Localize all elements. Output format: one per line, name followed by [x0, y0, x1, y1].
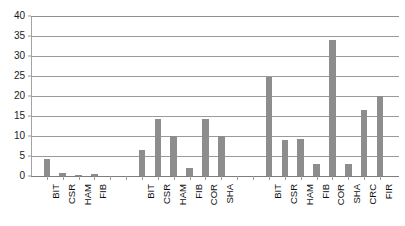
bar-g2-sha: [218, 136, 225, 176]
category-tick: [301, 176, 302, 180]
category-label-bit: BIT: [146, 184, 156, 199]
bar-g3-cor: [329, 40, 336, 176]
category-label-sha: SHA: [352, 184, 362, 204]
category-tick: [285, 176, 286, 180]
y-tick-label-25: 25: [14, 71, 25, 81]
y-tick-label-0: 0: [19, 171, 25, 181]
category-label-sha: SHA: [225, 184, 235, 204]
category-tick: [364, 176, 365, 180]
y-axis-tick-labels: 0510152025303540: [0, 0, 31, 226]
category-tick: [221, 176, 222, 180]
category-tick: [79, 176, 80, 180]
bar-g3-fir: [377, 96, 384, 176]
category-label-csr: CSR: [67, 184, 77, 204]
category-label-csr: CSR: [289, 184, 299, 204]
bar-g2-bit: [139, 150, 146, 176]
y-tick-label-10: 10: [14, 131, 25, 141]
bar-g2-csr: [155, 119, 162, 176]
category-tick: [47, 176, 48, 180]
bars-layer: [31, 16, 399, 176]
bar-g2-cor: [202, 119, 209, 176]
y-tick-label-40: 40: [14, 11, 25, 21]
category-tick: [110, 176, 111, 180]
bar-g3-crc: [361, 110, 368, 176]
category-label-ham: HAM: [83, 184, 93, 205]
y-tick-label-20: 20: [14, 91, 25, 101]
category-tick: [253, 176, 254, 180]
category-tick: [158, 176, 159, 180]
category-label-fib: FIB: [98, 184, 108, 199]
category-label-fir: FIR: [384, 184, 394, 199]
category-label-csr: CSR: [162, 184, 172, 204]
category-tick: [380, 176, 381, 180]
category-label-ham: HAM: [305, 184, 315, 205]
category-tick: [94, 176, 95, 180]
category-tick: [126, 176, 127, 180]
bar-chart: 0510152025303540 BITCSRHAMFIBBITCSRHAMFI…: [0, 0, 405, 226]
y-tick-label-5: 5: [19, 151, 25, 161]
bar-g2-fib: [186, 168, 193, 176]
bar-g3-bit: [266, 77, 273, 176]
category-label-bit: BIT: [51, 184, 61, 199]
category-label-fib: FIB: [194, 184, 204, 199]
category-tick: [332, 176, 333, 180]
category-tick: [269, 176, 270, 180]
category-tick: [205, 176, 206, 180]
bar-g3-csr: [282, 140, 289, 176]
category-axis: BITCSRHAMFIBBITCSRHAMFIBCORSHABITCSRHAMF…: [31, 176, 399, 226]
bar-g3-ham: [297, 139, 304, 176]
category-tick: [348, 176, 349, 180]
category-tick: [237, 176, 238, 180]
category-tick: [174, 176, 175, 180]
bar-g1-bit: [44, 159, 51, 176]
bar-g3-fib: [313, 164, 320, 176]
category-label-cor: COR: [336, 184, 346, 205]
category-label-cor: COR: [209, 184, 219, 205]
category-tick: [317, 176, 318, 180]
category-label-fib: FIB: [321, 184, 331, 199]
bar-g3-sha: [345, 164, 352, 176]
category-tick: [63, 176, 64, 180]
y-tick-label-15: 15: [14, 111, 25, 121]
y-tick-label-30: 30: [14, 51, 25, 61]
bar-g2-ham: [170, 136, 177, 176]
category-label-ham: HAM: [178, 184, 188, 205]
category-label-crc: CRC: [368, 184, 378, 205]
category-tick: [142, 176, 143, 180]
category-tick: [190, 176, 191, 180]
y-tick-label-35: 35: [14, 31, 25, 41]
category-label-bit: BIT: [273, 184, 283, 199]
